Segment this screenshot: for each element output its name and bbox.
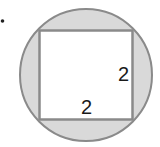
bullet-dot: [1, 19, 5, 23]
side-label-bottom: 2: [81, 96, 92, 118]
inscribed-square-diagram: 2 2: [0, 0, 160, 147]
side-label-right: 2: [118, 63, 129, 85]
